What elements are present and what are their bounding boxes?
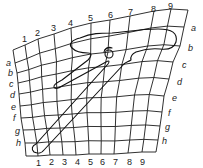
left-label: b [8,68,13,78]
right-label: g [165,122,170,132]
bottom-label: 2 [49,157,54,167]
grid-column-line [114,16,130,154]
grid-row-line [20,95,164,106]
left-label: a [6,58,11,68]
left-label: h [16,138,21,148]
grid-row-line [25,139,158,143]
grid-figure: 123456789123456789abcdefghabcdefgh [0,0,203,168]
grid-column-line [38,39,50,155]
top-label: 1 [22,34,27,44]
bottom-label: 3 [62,157,67,167]
left-label: e [11,102,16,112]
left-label: f [13,113,17,123]
grid-row-line [26,152,156,156]
right-label: b [188,43,193,53]
bottom-label: 6 [100,157,105,167]
left-label: d [10,90,16,100]
grid-row-line [21,111,162,118]
right-label: c [182,60,187,70]
top-label: 7 [128,7,133,17]
top-label: 8 [151,4,156,14]
bottom-label: 7 [113,157,118,167]
left-label: g [15,126,20,136]
top-label: 4 [68,18,73,28]
right-label: d [177,77,183,87]
top-label: 5 [88,13,93,23]
grid-column-line [87,23,91,154]
right-label: h [162,136,167,146]
diagram-canvas: 123456789123456789abcdefghabcdefgh [0,0,203,168]
left-label: c [9,79,14,89]
grid-row-line [23,125,160,130]
top-label: 2 [35,28,40,38]
right-label: f [168,108,172,118]
bottom-label: 8 [127,157,132,167]
top-label: 6 [108,10,113,20]
grid-column-line [128,11,154,153]
top-label: 3 [51,23,56,33]
bottom-label: 9 [140,157,145,167]
top-label: 9 [168,1,173,11]
right-label: e [172,93,177,103]
bottom-label: 4 [75,157,80,167]
grid-column-line [25,45,38,156]
grid-column-line [54,34,63,155]
right-label: a [191,23,196,33]
bottom-label: 5 [88,157,93,167]
hammer-outline-shape [32,29,176,153]
bottom-label: 1 [36,158,41,168]
